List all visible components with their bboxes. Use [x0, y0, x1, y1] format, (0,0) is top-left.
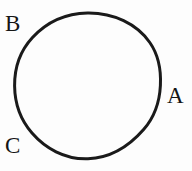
circle-diagram	[0, 0, 192, 171]
circle-outline	[15, 13, 161, 159]
figure-canvas: B A C	[0, 0, 192, 171]
point-label-c: C	[5, 134, 20, 157]
point-label-a: A	[167, 84, 184, 107]
point-label-b: B	[5, 12, 20, 35]
